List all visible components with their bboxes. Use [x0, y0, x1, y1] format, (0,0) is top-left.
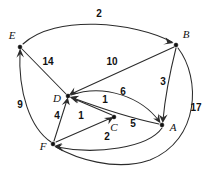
edge-path-F-C [56, 118, 111, 142]
graph-diagram-canvas: E B D C A F 2 14 9 10 3 17 6 1 4 1 5 2 [0, 0, 212, 171]
edge-weight-A-F: 2 [104, 131, 110, 142]
node-dot-E[interactable] [18, 45, 22, 49]
graph-svg: E B D C A F 2 14 9 10 3 17 6 1 4 1 5 2 [0, 0, 212, 171]
node-dot-F[interactable] [51, 142, 55, 146]
edge-weight-B-D: 10 [106, 56, 118, 67]
edge-weight-A-D: 5 [130, 118, 136, 129]
edge-weight-B-F: 17 [190, 102, 202, 113]
edge-weight-C-D: 1 [102, 94, 108, 105]
edge-weight-F-E: 9 [17, 99, 23, 110]
edge-weight-E-B: 2 [96, 8, 102, 19]
edge-weight-D-A: 6 [120, 86, 126, 97]
node-label-B: B [183, 28, 190, 40]
node-dot-D[interactable] [66, 94, 70, 98]
edge-D-A [71, 91, 161, 123]
node-label-F: F [39, 140, 47, 152]
node-dot-A[interactable] [160, 123, 164, 127]
node-dot-C[interactable] [112, 115, 116, 119]
edge-weight-F-D: 4 [54, 110, 60, 121]
edge-weight-B-A: 3 [160, 76, 166, 87]
node-label-E: E [8, 29, 16, 41]
node-label-C: C [110, 121, 118, 133]
edge-path-E-B [23, 24, 172, 44]
edge-E-B [23, 24, 174, 44]
node-label-D: D [52, 92, 61, 104]
node-label-A: A [169, 121, 177, 133]
node-dot-B[interactable] [174, 43, 178, 47]
edge-weight-F-C: 1 [78, 110, 84, 121]
edge-weight-E-D: 14 [42, 56, 54, 67]
